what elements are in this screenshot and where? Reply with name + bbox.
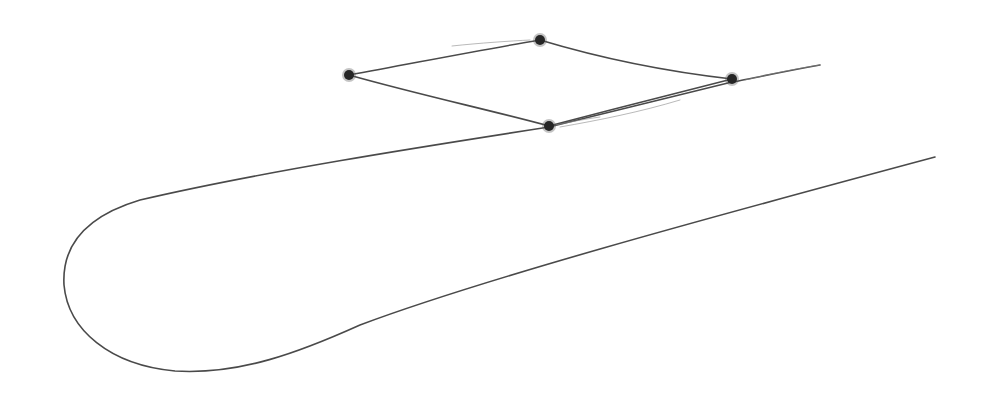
quad-edge-top-right [540, 40, 732, 79]
outline-upper-edge [64, 65, 935, 371]
quad-edge-sketch-extra [452, 40, 600, 125]
vertex-bottom [542, 119, 556, 133]
vertex-right [725, 72, 739, 86]
quad-edge-bottom-right [549, 79, 732, 126]
vertex-left [342, 68, 356, 82]
quad-edge-left-bottom [349, 75, 549, 126]
quad-edge-left-top [349, 40, 540, 75]
vertex-top [533, 33, 547, 47]
sketch-canvas [0, 0, 987, 397]
outline-sketch-overlap [560, 65, 820, 127]
